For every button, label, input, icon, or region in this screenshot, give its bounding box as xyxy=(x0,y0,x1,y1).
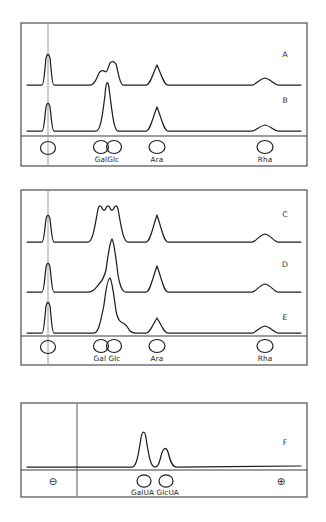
panel-middle: C D E Gal Glc Ara Rha xyxy=(21,190,307,365)
spot-label-ara-top: Ara xyxy=(151,155,164,164)
trace-d-curve xyxy=(27,239,301,292)
trace-label-a: A xyxy=(282,50,288,59)
trace-a-curve xyxy=(27,54,301,85)
negative-electrode-icon: ⊖ xyxy=(49,476,57,487)
panel-bottom-spot-strip: GalUA GlcUA ⊖ ⊕ xyxy=(49,475,285,497)
spot-label-rha-top: Rha xyxy=(258,155,272,164)
trace-label-d: D xyxy=(282,260,288,269)
panel-top-spot-strip: GalGlc Ara Rha xyxy=(41,141,274,165)
spot-label-galua-glcua: GalUA GlcUA xyxy=(131,488,179,497)
spot-label-ara-middle: Ara xyxy=(151,354,164,363)
trace-c-curve xyxy=(27,206,301,242)
spot-label-galglc-middle: Gal Glc xyxy=(94,354,121,363)
panel-middle-frame xyxy=(21,190,307,365)
panel-middle-spot-strip: Gal Glc Ara Rha xyxy=(41,340,274,364)
trace-b-curve xyxy=(27,83,301,131)
spot-ara-top xyxy=(149,141,165,154)
spot-label-rha-middle: Rha xyxy=(258,354,272,363)
spot-ara-middle xyxy=(149,340,165,353)
figure-canvas: A B GalGlc Ara Rha C D E xyxy=(0,0,326,522)
trace-f-curve xyxy=(27,432,301,467)
trace-label-f: F xyxy=(283,438,287,447)
spot-galua xyxy=(137,475,151,487)
spot-label-galglc-top: GalGlc xyxy=(95,155,119,164)
trace-label-b: B xyxy=(282,96,287,105)
panel-top: A B GalGlc Ara Rha xyxy=(21,23,307,166)
positive-electrode-icon: ⊕ xyxy=(277,476,285,487)
trace-label-e: E xyxy=(283,313,288,322)
panel-bottom: F GalUA GlcUA ⊖ ⊕ xyxy=(21,403,307,497)
spot-rha-top xyxy=(257,141,273,154)
spot-rha-middle xyxy=(257,340,273,353)
trace-label-c: C xyxy=(282,210,287,219)
spot-glcua xyxy=(159,475,173,487)
